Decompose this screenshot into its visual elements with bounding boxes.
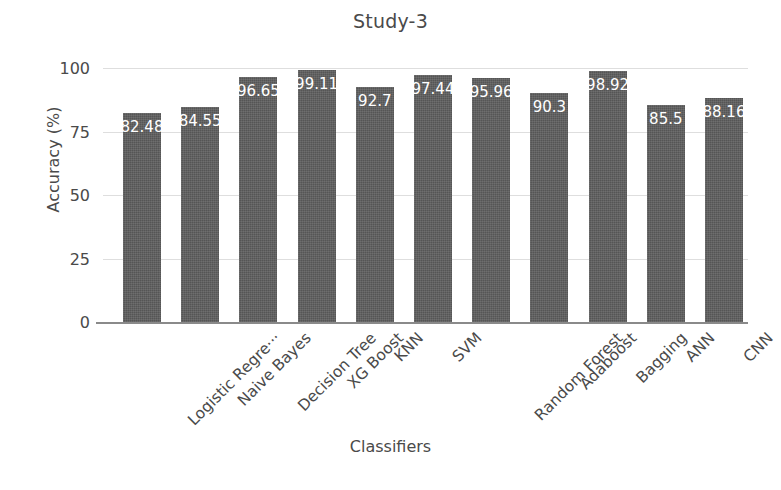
bar-value-label: 90.3: [524, 98, 574, 116]
bar[interactable]: 82.48: [123, 113, 161, 322]
bar[interactable]: 90.3: [530, 93, 568, 322]
bar[interactable]: 84.55: [181, 107, 219, 322]
bar-value-label: 99.11: [292, 75, 342, 93]
bar[interactable]: 92.7: [356, 87, 394, 322]
bar[interactable]: 98.92: [589, 71, 627, 322]
bar[interactable]: 95.96: [472, 78, 510, 322]
x-tick-label: Bagging: [632, 329, 690, 387]
bar-value-label: 96.65: [233, 82, 283, 100]
plot-area: 82.4884.5596.6599.1192.797.4495.9690.398…: [103, 68, 748, 322]
bar-value-label: 95.96: [466, 83, 516, 101]
bar-chart: Study-3 Accuracy (%) 0255075100 82.4884.…: [0, 0, 781, 490]
chart-title: Study-3: [0, 10, 781, 32]
y-tick-label: 75: [48, 122, 90, 141]
bar[interactable]: 96.65: [239, 77, 277, 322]
bar-value-label: 97.44: [408, 80, 458, 98]
bar-value-label: 98.92: [583, 76, 633, 94]
y-tick-label: 25: [48, 249, 90, 268]
x-tick-label: CNN: [740, 329, 777, 366]
y-tick-label: 100: [48, 59, 90, 78]
bar[interactable]: 88.16: [705, 98, 743, 322]
bar[interactable]: 85.5: [647, 105, 685, 322]
x-tick-label: ANN: [682, 329, 719, 366]
y-axis-ticks: 0255075100: [42, 0, 90, 490]
bar-value-label: 88.16: [699, 103, 749, 121]
bar-value-label: 84.55: [175, 112, 225, 130]
y-tick-label: 50: [48, 186, 90, 205]
bar-value-label: 85.5: [641, 110, 691, 128]
bar[interactable]: 99.11: [298, 70, 336, 322]
bar-value-label: 82.48: [117, 118, 167, 136]
gridline: [103, 68, 748, 69]
x-axis-title: Classifiers: [0, 437, 781, 456]
x-axis-line: [96, 322, 748, 324]
y-tick-label: 0: [48, 313, 90, 332]
bar-value-label: 92.7: [350, 92, 400, 110]
bar[interactable]: 97.44: [414, 75, 452, 322]
x-tick-label: SVM: [449, 329, 486, 366]
